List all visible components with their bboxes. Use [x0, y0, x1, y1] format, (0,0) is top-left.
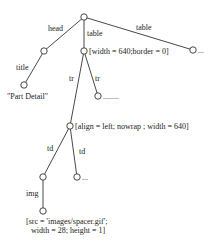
edge-label-td-1: td — [47, 144, 53, 153]
node-title — [21, 82, 27, 88]
annotation-tr-2: ........ — [103, 92, 119, 101]
annotation-table-1: [width = 640;border = 0] — [89, 47, 169, 56]
annotation-title: "Part Detail" — [7, 92, 48, 101]
edge-label-table-1: table — [87, 29, 103, 38]
edge-head — [44, 17, 84, 51]
edge-td-2 — [70, 126, 77, 177]
annotation-td-2: ... — [82, 173, 88, 182]
node-tr-1 — [67, 123, 73, 129]
edge-label-td-2: td — [79, 147, 85, 156]
annotation-img-line2: width = 28; height = 1] — [31, 226, 105, 235]
node-tr-2 — [95, 93, 101, 99]
edge-label-head: head — [48, 24, 63, 33]
node-table-2 — [190, 47, 196, 53]
node-td-2 — [74, 174, 80, 180]
node-root — [81, 14, 87, 20]
node-head — [41, 48, 47, 54]
edge-label-table-2: table — [136, 23, 152, 32]
annotation-img-line1: [src = 'images/spacer.gif'; — [26, 217, 107, 226]
annotation-tr-1: [align = left; nowrap ; width = 640] — [75, 122, 189, 131]
edge-label-tr-1: tr — [69, 74, 74, 83]
node-table-1 — [81, 48, 87, 54]
edge-tr-1 — [70, 51, 84, 126]
node-img — [40, 208, 46, 214]
annotation-table-2: ... — [198, 46, 204, 55]
edge-label-title: title — [16, 63, 28, 72]
edge-label-tr-2: tr — [95, 74, 100, 83]
node-td-1 — [40, 174, 46, 180]
edge-label-img: img — [26, 189, 38, 198]
